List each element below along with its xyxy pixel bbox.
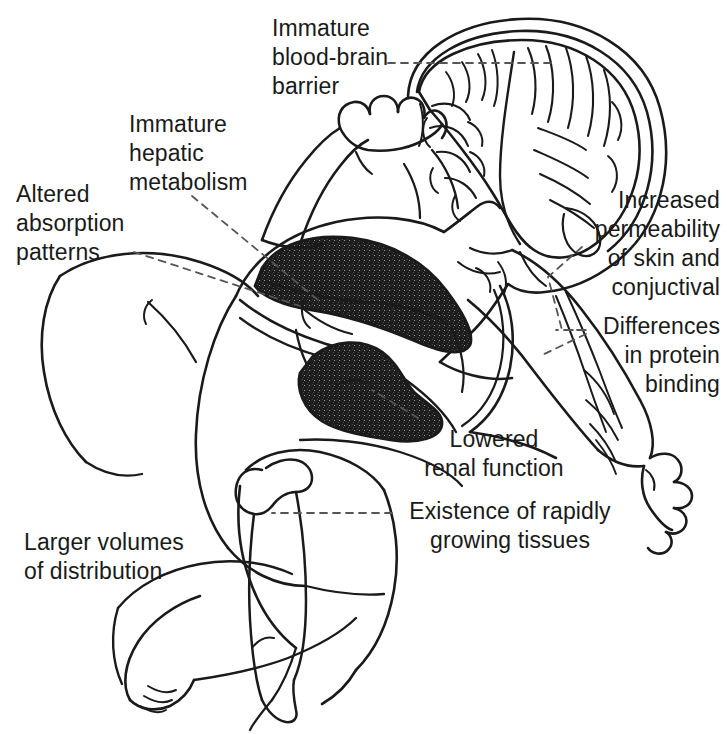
annotation-volumes-of-distribution: Larger volumes of distribution <box>24 528 234 586</box>
annotation-growing-tissues: Existence of rapidly growing tissues <box>398 497 622 555</box>
lower-limb <box>113 450 397 730</box>
annotation-protein-binding: Differences in protein binding <box>592 312 720 399</box>
annotation-renal-function: Lowered renal function <box>408 425 580 483</box>
leader-protein-binding-2 <box>540 334 586 356</box>
annotation-skin-permeability: Increased permeability of skin and conju… <box>592 186 720 302</box>
femur-bone <box>236 459 312 722</box>
neonate-pharmacokinetics-diagram: Immature blood-brain barrier Immature he… <box>0 0 727 734</box>
liver <box>255 237 471 352</box>
annotation-absorption-patterns: Altered absorption patterns <box>16 180 166 267</box>
annotation-blood-brain-barrier: Immature blood-brain barrier <box>272 14 452 101</box>
